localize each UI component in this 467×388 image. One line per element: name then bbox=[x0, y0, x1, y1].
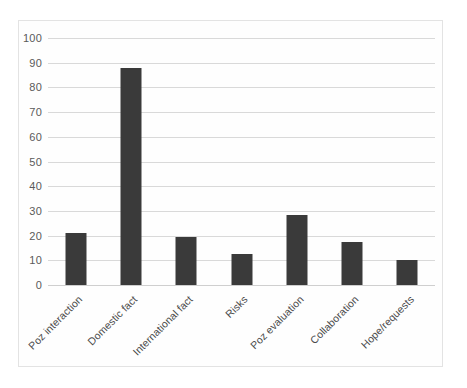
gridline-0 bbox=[48, 285, 435, 286]
y-axis-tick-label: 60 bbox=[29, 131, 42, 143]
bar[interactable] bbox=[120, 68, 141, 285]
y-axis-tick-label: 40 bbox=[29, 180, 42, 192]
bar[interactable] bbox=[65, 233, 86, 285]
gridline-60 bbox=[48, 137, 435, 138]
bar[interactable] bbox=[176, 237, 197, 285]
gridline-20 bbox=[48, 236, 435, 237]
x-axis-category-label: Collaboration bbox=[307, 293, 360, 346]
y-axis-tick-label: 80 bbox=[29, 81, 42, 93]
y-axis-tick-label: 70 bbox=[29, 106, 42, 118]
x-axis-category-label: Hope/requests bbox=[358, 293, 416, 351]
bar[interactable] bbox=[286, 215, 307, 285]
x-axis-category-label: Domestic fact bbox=[85, 293, 139, 347]
x-axis-category-label: Poz interaction bbox=[25, 293, 84, 352]
chart-frame: 0102030405060708090100 Poz interactionDo… bbox=[18, 20, 443, 367]
y-axis-tick-label: 100 bbox=[23, 32, 42, 44]
y-axis-tick-label: 0 bbox=[36, 279, 42, 291]
y-axis-tick-label: 10 bbox=[29, 254, 42, 266]
y-axis-tick-label: 90 bbox=[29, 57, 42, 69]
x-axis-category-label: International fact bbox=[130, 293, 195, 358]
y-axis-tick-label: 20 bbox=[29, 230, 42, 242]
y-axis-tick-label: 30 bbox=[29, 205, 42, 217]
bar[interactable] bbox=[231, 254, 252, 285]
bar[interactable] bbox=[342, 242, 363, 285]
x-axis-category-label: Poz evaluation bbox=[247, 293, 305, 351]
gridline-100 bbox=[48, 38, 435, 39]
bar[interactable] bbox=[397, 260, 418, 285]
gridline-40 bbox=[48, 186, 435, 187]
x-axis-category-label: Risks bbox=[223, 293, 250, 320]
gridline-70 bbox=[48, 112, 435, 113]
y-axis-tick-label: 50 bbox=[29, 156, 42, 168]
gridline-80 bbox=[48, 87, 435, 88]
gridline-90 bbox=[48, 63, 435, 64]
gridline-50 bbox=[48, 162, 435, 163]
plot-area: 0102030405060708090100 Poz interactionDo… bbox=[48, 38, 435, 285]
gridline-30 bbox=[48, 211, 435, 212]
